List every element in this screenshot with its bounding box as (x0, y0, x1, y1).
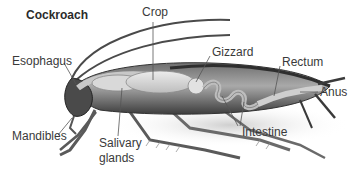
gizzard-organ (188, 78, 204, 94)
label-salivary-line1: Salivary (99, 137, 142, 150)
diagram-title: Cockroach (26, 9, 88, 22)
label-mandibles: Mandibles (12, 130, 67, 143)
label-salivary-line2: glands (99, 152, 134, 165)
crop-organ (126, 71, 194, 93)
label-anus: Anus (320, 86, 347, 99)
label-rectum: Rectum (282, 56, 323, 69)
label-intestine: Intestine (242, 126, 287, 139)
label-esophagus: Esophagus (12, 55, 72, 68)
label-gizzard: Gizzard (212, 46, 253, 59)
label-crop: Crop (142, 6, 168, 19)
cockroach-illustration (0, 0, 352, 174)
cockroach-diagram: Cockroach Crop Gizzard Rectum Anus Esoph… (0, 0, 352, 174)
